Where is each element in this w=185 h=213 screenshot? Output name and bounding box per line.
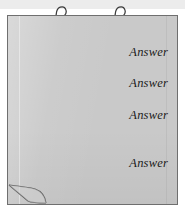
page-curl-icon <box>8 156 56 204</box>
flipchart-sheet: Answer Answer Answer Answer <box>7 15 178 205</box>
answer-label-2: Answer <box>129 77 168 90</box>
answer-label-1: Answer <box>129 46 168 59</box>
sheet-crease-left <box>19 16 20 204</box>
answer-label-4: Answer <box>129 157 168 170</box>
header-band <box>0 0 185 9</box>
answer-label-3: Answer <box>129 109 168 122</box>
flipchart-scene: Answer Answer Answer Answer <box>0 0 185 213</box>
